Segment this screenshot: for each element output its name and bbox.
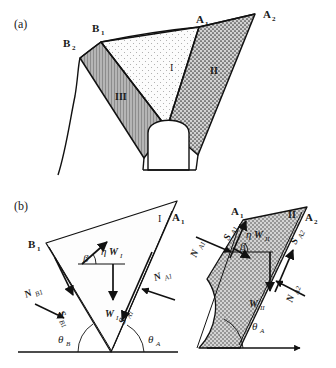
- label-theta-B: θ B: [58, 333, 71, 348]
- svg-text:B: B: [92, 22, 100, 34]
- label-N-A1-left: N A1: [151, 266, 173, 286]
- svg-text:B: B: [63, 37, 71, 49]
- svg-text:A1: A1: [197, 240, 208, 251]
- N-A1-arrow-left: [142, 289, 175, 300]
- svg-text:A: A: [259, 327, 265, 335]
- svg-text:B: B: [66, 340, 71, 348]
- tunnel-base-right: [196, 155, 198, 170]
- svg-text:W: W: [254, 229, 264, 240]
- vertex-label-B1: B 1: [92, 22, 105, 37]
- panel-a: (a) B 2 B 1 A 1 A 2 I II III: [14, 8, 276, 175]
- svg-text:B: B: [28, 238, 36, 250]
- label-region-I-left: I: [158, 213, 161, 224]
- label-B1-left: B 1: [28, 238, 41, 253]
- theta-B-arc: [78, 324, 93, 352]
- tunnel-arch: [148, 120, 189, 170]
- svg-text:A: A: [172, 211, 180, 223]
- label-S-B1: S B1: [54, 309, 74, 330]
- label-region-II-right: II: [288, 209, 296, 220]
- svg-text:N: N: [21, 287, 34, 301]
- svg-text:2: 2: [72, 44, 76, 52]
- svg-text:W: W: [249, 298, 259, 309]
- svg-text:A: A: [231, 205, 239, 217]
- svg-text:A2: A2: [296, 229, 307, 241]
- region-I-label: I: [170, 62, 173, 73]
- svg-text:A: A: [263, 8, 271, 20]
- figure-svg: (a) B 2 B 1 A 1 A 2 I II III (b): [0, 0, 336, 368]
- svg-text:B1: B1: [57, 319, 68, 330]
- label-beta-right: β: [239, 240, 246, 252]
- svg-text:II: II: [259, 304, 265, 312]
- svg-text:θ: θ: [58, 333, 64, 345]
- free-body-block-I: B 1 I A 1 η W I β W I N B1: [18, 201, 185, 352]
- svg-text:η: η: [246, 228, 251, 240]
- panel-b-label: (b): [14, 199, 28, 213]
- svg-text:1: 1: [205, 20, 209, 28]
- label-theta-A-right: θ A: [252, 320, 265, 335]
- svg-text:W: W: [105, 308, 115, 319]
- label-A1-right: A 1: [231, 205, 244, 220]
- label-A2-right: A 2: [305, 211, 318, 226]
- vertex-label-A2: A 2: [263, 8, 276, 23]
- svg-text:1: 1: [240, 212, 244, 220]
- svg-text:η: η: [101, 245, 106, 257]
- label-N-B1: N B1: [21, 283, 44, 303]
- region-II-label: II: [210, 65, 218, 76]
- svg-text:W: W: [109, 246, 119, 257]
- svg-text:θ: θ: [148, 333, 154, 345]
- label-N-A1-right: N A1: [187, 238, 207, 261]
- svg-text:1: 1: [37, 245, 41, 253]
- svg-text:B1: B1: [34, 288, 44, 298]
- svg-text:A: A: [155, 340, 161, 348]
- label-theta-A-left: θ A: [148, 333, 161, 348]
- svg-text:N: N: [151, 270, 163, 283]
- panel-a-label: (a): [14, 17, 27, 31]
- panel-b: (b): [14, 199, 318, 352]
- label-A1-left: A 1: [172, 211, 185, 226]
- svg-text:II: II: [264, 235, 270, 243]
- svg-text:A: A: [196, 13, 204, 25]
- svg-text:A: A: [305, 211, 313, 223]
- svg-text:A1: A1: [162, 272, 173, 283]
- theta-A-arc: [127, 325, 144, 352]
- tunnel-base-left: [143, 158, 144, 170]
- figure-canvas: (a) B 2 B 1 A 1 A 2 I II III (b): [0, 0, 336, 368]
- label-beta-left: β: [82, 252, 89, 264]
- svg-text:1: 1: [181, 218, 185, 226]
- region-III-label: III: [115, 91, 127, 102]
- svg-text:1: 1: [101, 29, 105, 37]
- free-body-block-II: A 1 II A 2 η W II β W II N A1: [187, 205, 318, 348]
- svg-text:2: 2: [314, 218, 318, 226]
- svg-text:2: 2: [272, 15, 276, 23]
- vertex-label-B2: B 2: [63, 37, 76, 52]
- svg-text:θ: θ: [252, 320, 258, 332]
